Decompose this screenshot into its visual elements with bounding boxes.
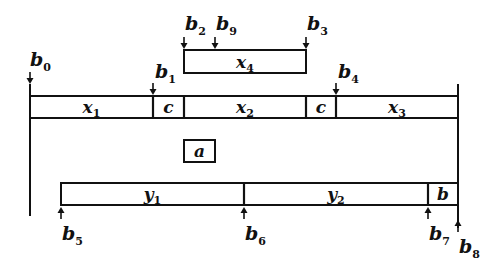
marker-label-main: b [245, 222, 258, 244]
segment-x1-subscript: 1 [93, 107, 101, 120]
marker-label-main: b [338, 60, 351, 82]
marker-b5: b5 [58, 207, 83, 248]
marker-label: b8 [459, 235, 480, 261]
marker-label-subscript: 3 [320, 25, 328, 38]
marker-label-subscript: 0 [43, 61, 51, 74]
segment-b-main: b [437, 184, 449, 204]
marker-b8: b8 [455, 220, 481, 261]
box-a-label-main: a [194, 141, 205, 161]
marker-label-subscript: 1 [168, 73, 176, 86]
marker-label-main: b [185, 12, 198, 34]
middle-box-a: a [184, 140, 215, 162]
marker-label-subscript: 5 [75, 235, 83, 248]
marker-label-main: b [307, 12, 320, 34]
marker-label-main: b [30, 48, 43, 70]
segment-c: c [163, 97, 174, 117]
arrow-down-icon [212, 43, 219, 49]
marker-b1: b1 [150, 60, 176, 95]
bottom-bar-outline [61, 183, 458, 205]
arrow-down-icon [27, 78, 34, 84]
marker-label: b5 [62, 222, 83, 248]
marker-b6: b6 [241, 207, 267, 248]
marker-label: b1 [155, 60, 176, 86]
marker-b0: b0 [27, 48, 52, 84]
marker-label-subscript: 6 [258, 235, 266, 248]
marker-label: b2 [185, 12, 206, 38]
segment-x2-subscript: 2 [246, 107, 254, 120]
segment-c-main: c [316, 97, 327, 117]
segment-c: c [316, 97, 327, 117]
segment-c-main: c [163, 97, 174, 117]
marker-label-main: b [429, 222, 442, 244]
marker-b4: b4 [333, 60, 360, 95]
bottom-bar: y1y2b [61, 183, 458, 207]
marker-label-subscript: 7 [442, 235, 450, 248]
marker-label: b9 [216, 12, 237, 38]
arrow-down-icon [150, 89, 157, 95]
arrow-down-icon [333, 89, 340, 95]
marker-label-subscript: 9 [229, 25, 237, 38]
marker-label: b4 [338, 60, 359, 86]
marker-label-subscript: 2 [198, 25, 206, 38]
marker-label: b3 [307, 12, 328, 38]
arrow-down-icon [303, 43, 310, 49]
marker-b9: b9 [212, 12, 237, 49]
arrow-down-icon [181, 43, 188, 49]
segment-x3-subscript: 3 [398, 107, 406, 120]
buffer-layout-diagram: x4 x1cx2cx3 a y1y2b b0b1b2b9b3b4b5b6b7b8 [0, 0, 504, 266]
marker-b2: b2 [181, 12, 206, 49]
segment-y2-subscript: 2 [337, 194, 345, 207]
box-x4-label-subscript: 4 [246, 62, 254, 75]
top-box-x4: x4 [184, 50, 306, 75]
marker-label: b7 [429, 222, 450, 248]
marker-label-subscript: 4 [351, 73, 359, 86]
marker-label-main: b [459, 235, 472, 257]
marker-label: b0 [30, 48, 51, 74]
box-a-label: a [194, 141, 205, 161]
segment-y1-subscript: 1 [154, 194, 162, 207]
marker-b3: b3 [303, 12, 328, 49]
segment-b: b [437, 184, 449, 204]
marker-label-main: b [62, 222, 75, 244]
marker-label: b6 [245, 222, 266, 248]
marker-label-main: b [216, 12, 229, 34]
main-bar: x1cx2cx3 [30, 96, 458, 120]
marker-label-main: b [155, 60, 168, 82]
marker-b7: b7 [425, 207, 450, 248]
marker-label-subscript: 8 [472, 248, 480, 261]
